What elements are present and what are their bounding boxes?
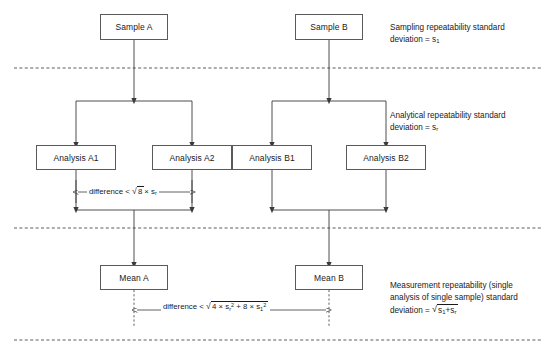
repeatability-flow-diagram: Sample A Sample B Analysis A1 Analysis A…	[0, 0, 556, 350]
node-analysis-b1[interactable]: Analysis B1	[232, 145, 312, 170]
measurement-label-line3-prefix: deviation =	[390, 306, 432, 315]
mean-difference-term2-exponent: 2	[263, 302, 266, 308]
node-sample-b-label: Sample B	[310, 22, 348, 32]
sampling-label-line2-prefix: deviation = s	[390, 35, 436, 44]
mean-difference-operator: +	[234, 302, 243, 311]
analytical-label-line2-prefix: deviation = s	[390, 123, 436, 132]
node-analysis-a2-label: Analysis A2	[169, 153, 214, 163]
side-label-measurement-repeatability: Measurement repeatability (single analys…	[390, 280, 555, 319]
node-mean-a[interactable]: Mean A	[100, 265, 168, 290]
annotation-mean-difference: difference < √4 × sr2 + 8 × s12	[161, 301, 270, 312]
node-analysis-b2-label: Analysis B2	[363, 153, 409, 163]
analysis-difference-radical: √8	[132, 186, 144, 196]
node-analysis-b1-label: Analysis B1	[249, 153, 295, 163]
analytical-label-subscript: r	[436, 127, 438, 133]
measurement-radical: √s1+sr	[432, 304, 458, 319]
node-mean-b-label: Mean B	[314, 273, 344, 283]
node-sample-a-label: Sample A	[115, 22, 152, 32]
mean-difference-prefix: difference <	[163, 302, 206, 311]
node-analysis-a2[interactable]: Analysis A2	[152, 145, 232, 170]
side-label-sampling-repeatability: Sampling repeatability standard deviatio…	[390, 22, 555, 48]
radicand-term-b-sub: r	[454, 310, 456, 316]
node-analysis-a1[interactable]: Analysis A1	[36, 145, 116, 170]
radical-symbol-icon: √	[206, 302, 211, 311]
mean-difference-term2-coeff: 8 ×	[243, 302, 256, 311]
measurement-label-line1: Measurement repeatability (single	[390, 281, 513, 290]
side-label-analytical-repeatability: Analytical repeatability standard deviat…	[390, 110, 555, 136]
mean-difference-term1-coeff: 4 ×	[212, 302, 225, 311]
analysis-difference-radicand: 8	[137, 186, 144, 196]
analysis-difference-prefix: difference <	[89, 187, 132, 196]
node-sample-a[interactable]: Sample A	[100, 14, 168, 40]
measurement-radicand: s1+sr	[437, 304, 458, 319]
radical-symbol-icon: √	[132, 187, 137, 196]
analytical-label-line1: Analytical repeatability standard	[390, 111, 506, 120]
annotation-analysis-difference: difference < √8× sr	[87, 186, 159, 196]
sampling-label-subscript: 1	[436, 39, 439, 45]
radical-symbol-icon: √	[432, 305, 437, 314]
sampling-label-line1: Sampling repeatability standard	[390, 23, 505, 32]
node-mean-b[interactable]: Mean B	[295, 265, 363, 290]
measurement-label-line2: analysis of single sample) standard	[390, 293, 518, 302]
node-mean-a-label: Mean A	[119, 273, 148, 283]
analysis-difference-subscript: r	[155, 190, 157, 196]
node-analysis-a1-label: Analysis A1	[53, 153, 98, 163]
mean-difference-radical: √4 × sr2 + 8 × s12	[206, 301, 268, 312]
mean-difference-radicand: 4 × sr2 + 8 × s12	[211, 301, 268, 312]
node-analysis-b2[interactable]: Analysis B2	[346, 145, 426, 170]
node-sample-b[interactable]: Sample B	[295, 14, 363, 40]
